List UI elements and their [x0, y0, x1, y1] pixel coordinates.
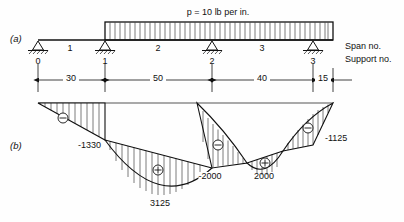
- moment-region-negative-support2: [197, 103, 247, 168]
- support-number-2: 2: [209, 57, 214, 66]
- moment-annotation-2000: 2000: [254, 172, 274, 181]
- support-1: [95, 41, 115, 54]
- moment-region-negative-span1: [38, 103, 105, 140]
- dimension-15: 15: [315, 74, 331, 83]
- figure-graphics: [0, 0, 404, 222]
- dimension-line: [38, 64, 352, 92]
- moment-annotation-3125: 3125: [150, 199, 170, 208]
- support-0: [28, 41, 48, 54]
- support-number-1: 1: [102, 57, 107, 66]
- part-a-label: (a): [10, 34, 22, 44]
- moment-annotation-minus-2000: -2000: [198, 172, 221, 181]
- span-number-3: 3: [259, 44, 264, 53]
- sign-symbol-negative-1: [58, 113, 68, 123]
- support-number-3: 3: [310, 57, 315, 66]
- support-no-legend: Support no.: [345, 55, 392, 64]
- support-number-0: 0: [35, 57, 40, 66]
- sign-symbol-negative-2: [213, 140, 223, 150]
- support-3: [303, 41, 323, 54]
- sign-symbol-negative-3: [303, 123, 313, 133]
- distributed-load-label: p = 10 lb per in.: [187, 8, 249, 17]
- moment-annotation-minus-1125: -1125: [325, 134, 347, 143]
- support-2: [202, 41, 222, 54]
- span-number-2: 2: [155, 44, 160, 53]
- dimension-50: 50: [150, 74, 166, 83]
- dimension-40: 40: [254, 74, 270, 83]
- span-no-legend: Span no.: [345, 42, 381, 51]
- sign-symbol-positive-1: [153, 165, 163, 175]
- distributed-load-block: [105, 22, 333, 40]
- span-number-1: 1: [67, 44, 72, 53]
- sign-symbol-positive-2: [260, 158, 270, 168]
- moment-annotation-minus-1330: -1330: [78, 141, 101, 150]
- beam-moment-figure: (a) (b) p = 10 lb per in. 1 2 3 0 1 2 3 …: [0, 0, 404, 222]
- part-b-label: (b): [10, 141, 22, 151]
- dimension-30: 30: [63, 74, 79, 83]
